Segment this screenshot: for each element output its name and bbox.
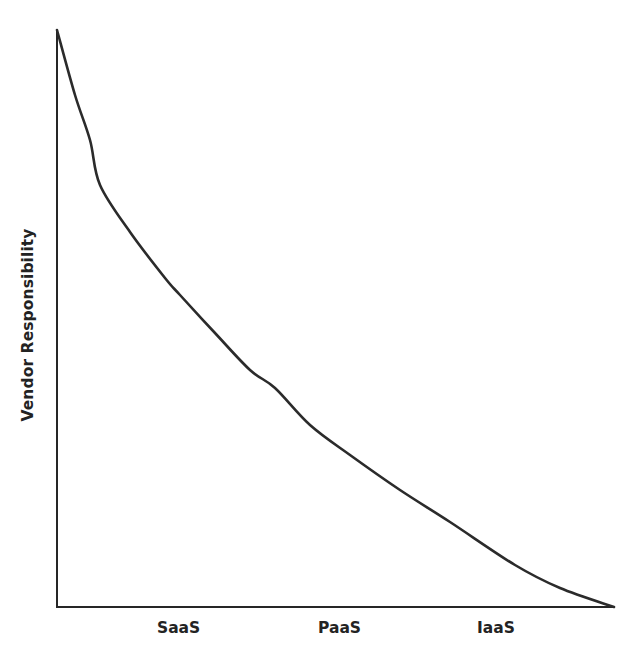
x-tick-label-paas: PaaS bbox=[318, 619, 361, 637]
x-tick-label-saas: SaaS bbox=[157, 619, 200, 637]
x-tick-label-iaas: IaaS bbox=[477, 619, 515, 637]
chart-container: Vendor Responsibility SaaS PaaS IaaS bbox=[0, 0, 635, 663]
vendor-responsibility-curve bbox=[57, 30, 614, 607]
chart-plot-area bbox=[0, 0, 635, 663]
